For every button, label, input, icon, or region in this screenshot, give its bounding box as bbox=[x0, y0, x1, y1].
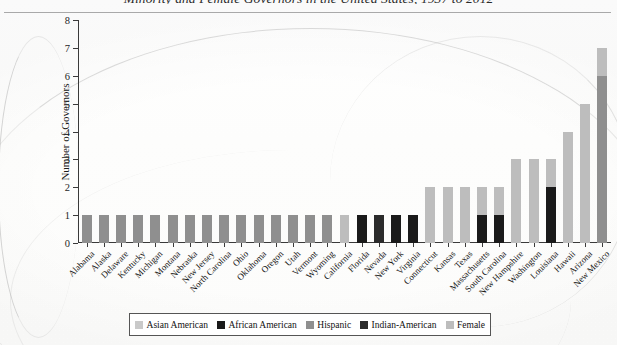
x-tick-14 bbox=[327, 243, 328, 247]
x-tick-18 bbox=[396, 243, 397, 247]
bar-arizona[interactable] bbox=[580, 104, 590, 243]
bar-new-hampshire[interactable] bbox=[511, 159, 521, 243]
bar-virginia[interactable] bbox=[408, 215, 418, 243]
x-tick-29 bbox=[585, 243, 586, 247]
bar-segment-hispanic bbox=[185, 215, 195, 243]
bar-segment-hispanic bbox=[254, 215, 264, 243]
bar-segment-female bbox=[546, 159, 556, 187]
x-tick-28 bbox=[568, 243, 569, 247]
bar-hawaii[interactable] bbox=[563, 132, 573, 244]
bar-north-carolina[interactable] bbox=[219, 215, 229, 243]
chart-plot-area: Number of Governors 012345678 AlabamaAla… bbox=[78, 20, 611, 243]
y-tick-2 bbox=[73, 187, 78, 188]
bar-montana[interactable] bbox=[168, 215, 178, 243]
y-tick-label-8: 8 bbox=[65, 15, 70, 26]
y-tick-label-4: 4 bbox=[65, 126, 70, 137]
bar-michigan[interactable] bbox=[150, 215, 160, 243]
bar-segment-hispanic bbox=[597, 76, 607, 243]
bar-texas[interactable] bbox=[460, 187, 470, 243]
bar-ohio[interactable] bbox=[236, 215, 246, 243]
y-tick-8 bbox=[73, 20, 78, 21]
y-tick-label-6: 6 bbox=[65, 70, 70, 81]
legend-label: African American bbox=[229, 320, 297, 330]
bar-california[interactable] bbox=[340, 215, 350, 243]
x-tick-12 bbox=[293, 243, 294, 247]
bar-segment-hispanic bbox=[202, 215, 212, 243]
bar-segment-african-american bbox=[391, 215, 401, 243]
bar-segment-african-american bbox=[546, 187, 556, 243]
legend-swatch-icon bbox=[446, 321, 454, 329]
y-axis-line bbox=[78, 20, 79, 243]
bar-segment-female bbox=[597, 48, 607, 76]
y-tick-6 bbox=[73, 76, 78, 77]
x-tick-15 bbox=[345, 243, 346, 247]
bar-segment-african-american bbox=[494, 215, 504, 243]
bar-oklahoma[interactable] bbox=[254, 215, 264, 243]
x-tick-24 bbox=[499, 243, 500, 247]
bar-segment-hispanic bbox=[219, 215, 229, 243]
bar-south-carolina[interactable] bbox=[494, 187, 504, 243]
bar-segment-female bbox=[340, 215, 350, 243]
legend-swatch-icon bbox=[306, 321, 314, 329]
x-tick-4 bbox=[155, 243, 156, 247]
y-tick-label-1: 1 bbox=[65, 210, 70, 221]
bar-alaska[interactable] bbox=[99, 215, 109, 243]
x-tick-11 bbox=[276, 243, 277, 247]
legend-item-hispanic[interactable]: Hispanic bbox=[306, 320, 351, 330]
y-tick-label-2: 2 bbox=[65, 182, 70, 193]
bar-segment-hispanic bbox=[150, 215, 160, 243]
legend-item-indian-american[interactable]: Indian-American bbox=[360, 320, 436, 330]
bar-segment-female bbox=[580, 104, 590, 243]
x-tick-10 bbox=[259, 243, 260, 247]
legend-label: Hispanic bbox=[317, 320, 351, 330]
bar-segment-indian-american bbox=[374, 215, 384, 243]
bar-massachusetts[interactable] bbox=[477, 187, 487, 243]
bar-new-jersey[interactable] bbox=[202, 215, 212, 243]
x-tick-22 bbox=[465, 243, 466, 247]
bar-kansas[interactable] bbox=[443, 187, 453, 243]
bar-washington[interactable] bbox=[529, 159, 539, 243]
legend-item-african-american[interactable]: African American bbox=[217, 320, 297, 330]
bar-segment-female bbox=[443, 187, 453, 243]
x-tick-6 bbox=[190, 243, 191, 247]
bar-kentucky[interactable] bbox=[133, 215, 143, 243]
legend-item-female[interactable]: Female bbox=[446, 320, 485, 330]
bar-segment-hispanic bbox=[99, 215, 109, 243]
bar-alabama[interactable] bbox=[82, 215, 92, 243]
x-tick-16 bbox=[362, 243, 363, 247]
legend-label: Female bbox=[457, 320, 485, 330]
x-tick-25 bbox=[516, 243, 517, 247]
x-tick-17 bbox=[379, 243, 380, 247]
bar-utah[interactable] bbox=[288, 215, 298, 243]
bar-delaware[interactable] bbox=[116, 215, 126, 243]
x-tick-27 bbox=[551, 243, 552, 247]
bar-oregon[interactable] bbox=[271, 215, 281, 243]
bar-segment-female bbox=[511, 159, 521, 243]
bar-louisiana[interactable] bbox=[546, 159, 556, 243]
x-tick-13 bbox=[310, 243, 311, 247]
bar-new-mexico[interactable] bbox=[597, 48, 607, 243]
x-tick-23 bbox=[482, 243, 483, 247]
bar-segment-hispanic bbox=[82, 215, 92, 243]
bar-segment-female bbox=[563, 132, 573, 244]
legend-label: Indian-American bbox=[372, 320, 437, 330]
bar-florida[interactable] bbox=[357, 215, 367, 243]
bar-segment-female bbox=[529, 159, 539, 243]
x-tick-2 bbox=[121, 243, 122, 247]
bar-wyoming[interactable] bbox=[322, 215, 332, 243]
chart-legend: Asian AmericanAfrican AmericanHispanicIn… bbox=[129, 313, 491, 336]
y-tick-label-3: 3 bbox=[65, 154, 70, 165]
bar-segment-female bbox=[477, 187, 487, 215]
bar-segment-hispanic bbox=[133, 215, 143, 243]
legend-item-asian-american[interactable]: Asian American bbox=[135, 320, 208, 330]
bar-nevada[interactable] bbox=[374, 215, 384, 243]
x-tick-5 bbox=[173, 243, 174, 247]
x-tick-8 bbox=[224, 243, 225, 247]
bar-nebraska[interactable] bbox=[185, 215, 195, 243]
bar-segment-hispanic bbox=[168, 215, 178, 243]
bar-connecticut[interactable] bbox=[425, 187, 435, 243]
bar-segment-african-american bbox=[408, 215, 418, 243]
bar-segment-female bbox=[494, 187, 504, 215]
bar-new-york[interactable] bbox=[391, 215, 401, 243]
bar-vermont[interactable] bbox=[305, 215, 315, 243]
